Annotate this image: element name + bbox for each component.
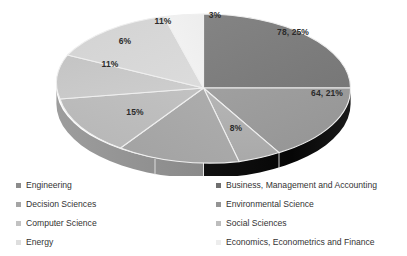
pie-chart-figure: 78, 25% 64, 21% 8% 15% 11% 6% 11% 3% Eng…	[0, 0, 407, 256]
pie-chart-plot-area: 78, 25% 64, 21% 8% 15% 11% 6% 11% 3%	[0, 0, 407, 176]
legend-label: Computer Science	[26, 219, 97, 228]
legend-item-economics-econometrics-and-finance[interactable]: Economics, Econometrics and Finance	[216, 235, 377, 250]
legend-column-right: Business, Management and Accounting Envi…	[216, 178, 377, 254]
legend-item-computer-science[interactable]: Computer Science	[16, 216, 97, 231]
legend-label: Social Sciences	[226, 219, 287, 228]
legend-item-decision-sciences[interactable]: Decision Sciences	[16, 197, 97, 212]
legend-label: Engineering	[26, 181, 72, 190]
legend-column-left: Engineering Decision Sciences Computer S…	[16, 178, 97, 254]
legend-item-energy[interactable]: Energy	[16, 235, 97, 250]
legend-item-business-management-and-accounting[interactable]: Business, Management and Accounting	[216, 178, 377, 193]
legend-label: Energy	[26, 238, 53, 247]
legend-swatch-icon	[16, 240, 21, 245]
legend-swatch-icon	[16, 183, 21, 188]
pie-slices	[57, 14, 351, 163]
legend-label: Business, Management and Accounting	[226, 181, 377, 190]
legend-swatch-icon	[216, 183, 221, 188]
pie-slice-business-management-and-accounting[interactable]	[204, 14, 351, 88]
legend-item-social-sciences[interactable]: Social Sciences	[216, 216, 377, 231]
legend-item-engineering[interactable]: Engineering	[16, 178, 97, 193]
legend-label: Decision Sciences	[26, 200, 96, 209]
legend-swatch-icon	[16, 202, 21, 207]
legend-label: Economics, Econometrics and Finance	[226, 238, 375, 247]
legend-swatch-icon	[216, 240, 221, 245]
legend-swatch-icon	[216, 202, 221, 207]
pie-chart-svg	[0, 0, 407, 176]
legend-swatch-icon	[16, 221, 21, 226]
legend-swatch-icon	[216, 221, 221, 226]
chart-legend: Engineering Decision Sciences Computer S…	[0, 178, 407, 256]
legend-label: Environmental Science	[226, 200, 314, 209]
legend-item-environmental-science[interactable]: Environmental Science	[216, 197, 377, 212]
